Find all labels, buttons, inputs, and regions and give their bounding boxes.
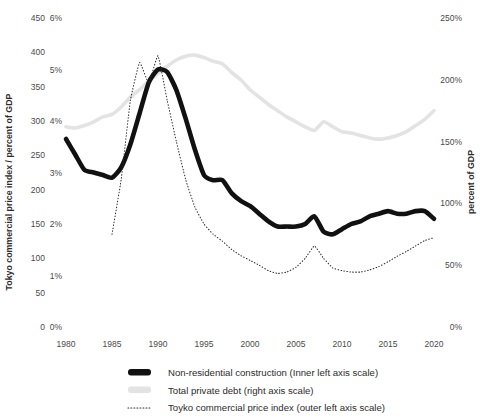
legend-label-1: Total private debt (right axis scale) [168, 385, 314, 396]
right-tick-5: 250% [440, 13, 462, 23]
outer-left-tick-6: 300 [31, 116, 45, 126]
outer-left-tick-3: 150 [31, 219, 45, 229]
right-tick-1: 50% [445, 260, 462, 270]
outer-left-tick-0: 0 [40, 322, 45, 332]
outer-left-tick-1: 50 [36, 288, 46, 298]
x-tick-2000: 2000 [241, 339, 260, 349]
x-tick-1995: 1995 [195, 339, 214, 349]
right-tick-2: 100% [440, 198, 462, 208]
legend-label-2: Toyko commercial price index (outer left… [168, 402, 385, 413]
outer-left-tick-8: 400 [31, 47, 45, 57]
legend-label-0: Non-residential construction (Inner left… [168, 367, 378, 378]
inner-left-tick-1: 1% [50, 271, 63, 281]
right-tick-0: 0% [450, 322, 463, 332]
inner-left-tick-0: 0% [50, 322, 63, 332]
x-tick-1985: 1985 [103, 339, 122, 349]
inner-left-tick-2: 2% [50, 219, 63, 229]
x-tick-2020: 2020 [425, 339, 444, 349]
legend-marker-1 [128, 387, 151, 394]
right-tick-4: 200% [440, 75, 462, 85]
inner-left-tick-4: 4% [50, 116, 63, 126]
chart-background [0, 0, 484, 418]
x-axis-ticks: 198019851990199520002005201020152020 [57, 339, 444, 349]
inner-left-tick-6: 6% [50, 13, 63, 23]
x-tick-2015: 2015 [379, 339, 398, 349]
right-axis-title: percent of GDP [466, 150, 476, 214]
x-tick-1980: 1980 [57, 339, 76, 349]
outer-left-tick-7: 350 [31, 82, 45, 92]
outer-left-tick-2: 100 [31, 253, 45, 263]
left-axis-title: Tokyo commercial price index / percent o… [4, 93, 14, 290]
x-tick-2005: 2005 [287, 339, 306, 349]
inner-left-tick-3: 3% [50, 168, 63, 178]
outer-left-tick-9: 450 [31, 13, 45, 23]
x-tick-1990: 1990 [149, 339, 168, 349]
legend-marker-0 [128, 369, 151, 376]
outer-left-tick-5: 250 [31, 150, 45, 160]
chart-container: 050100150200250300350400450 0%1%2%3%4%5%… [0, 0, 484, 418]
outer-left-tick-4: 200 [31, 185, 45, 195]
x-tick-2010: 2010 [333, 339, 352, 349]
right-tick-3: 150% [440, 137, 462, 147]
chart-svg: 050100150200250300350400450 0%1%2%3%4%5%… [0, 0, 484, 418]
inner-left-tick-5: 5% [50, 65, 63, 75]
